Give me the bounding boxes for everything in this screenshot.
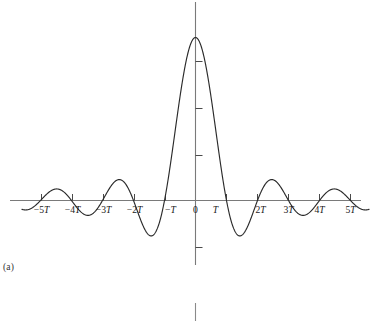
figure-container: −5T −4T −3T −2T −T 0 T 2T 3T 4T 5T (a) bbox=[0, 0, 373, 327]
sinc-function-plot: −5T −4T −3T −2T −T 0 T 2T 3T 4T 5T bbox=[0, 0, 373, 327]
y-axis-ticks bbox=[196, 62, 203, 248]
panel-label: (a) bbox=[3, 262, 14, 272]
x-tick-label--3T: −3T bbox=[96, 204, 112, 215]
x-tick-label-5T: 5T bbox=[345, 204, 356, 215]
x-tick-label--4T: −4T bbox=[65, 204, 81, 215]
x-tick-label-3T: 3T bbox=[283, 204, 294, 215]
x-tick-label--T: −T bbox=[165, 204, 176, 215]
x-tick-label-0: 0 bbox=[193, 204, 198, 215]
x-tick-label--5T: −5T bbox=[34, 204, 50, 215]
x-tick-label--2T: −2T bbox=[127, 204, 143, 215]
x-tick-label-2T: 2T bbox=[255, 204, 266, 215]
x-tick-label-T: T bbox=[213, 204, 219, 215]
x-tick-label-4T: 4T bbox=[314, 204, 325, 215]
